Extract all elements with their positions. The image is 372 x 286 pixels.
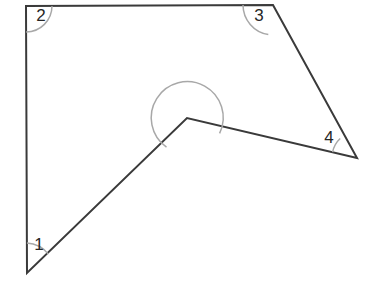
angle-arc-reflex	[151, 82, 223, 147]
polygon-outline	[26, 5, 357, 273]
angle-label-4: 4	[324, 128, 333, 147]
angle-label-1: 1	[34, 235, 43, 254]
geometry-figure: 1 2 3 4	[0, 0, 372, 286]
angle-label-2: 2	[36, 6, 45, 25]
angle-arc-4	[333, 139, 341, 153]
angle-label-3: 3	[254, 6, 263, 25]
polygon-diagram-canvas: 1 2 3 4	[0, 0, 372, 286]
